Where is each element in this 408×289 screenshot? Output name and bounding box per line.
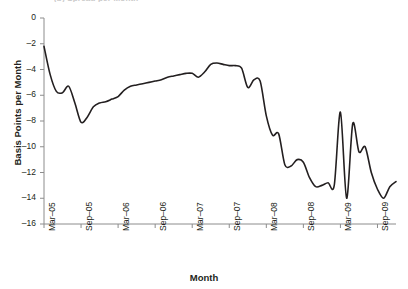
tick-marks <box>40 18 377 228</box>
x-tick-label: Mar–09 <box>344 202 353 231</box>
y-tick-label: –12 <box>2 168 36 177</box>
x-tick-label: Sep–08 <box>307 202 316 231</box>
x-tick-label: Sep–06 <box>159 202 168 231</box>
y-axis-title: Basis Points per Month <box>12 66 23 166</box>
axis-lines <box>44 18 396 224</box>
x-tick-label: Mar–07 <box>196 202 205 231</box>
x-tick-label: Sep–07 <box>233 202 242 231</box>
y-tick-label: –16 <box>2 219 36 228</box>
y-tick-label: 0 <box>2 13 36 22</box>
y-tick-label: –2 <box>2 39 36 48</box>
x-tick-label: Mar–05 <box>48 202 57 231</box>
x-tick-label: Sep–09 <box>381 202 390 231</box>
data-series-line <box>44 46 396 198</box>
x-tick-label: Mar–06 <box>122 202 131 231</box>
x-axis-title: Month <box>0 272 408 283</box>
x-tick-label: Sep–05 <box>85 202 94 231</box>
line-chart-plot <box>0 0 408 289</box>
y-tick-label: –14 <box>2 193 36 202</box>
x-tick-label: Mar–08 <box>270 202 279 231</box>
chart-figure: (b) Spread per Month 0–2–4–6–8–10–12–14–… <box>0 0 408 289</box>
